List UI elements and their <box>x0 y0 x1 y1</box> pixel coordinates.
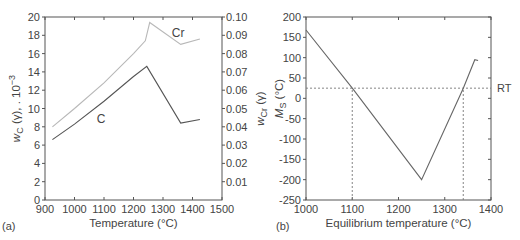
panel-a-right-y-axis-title: wCr (γ) <box>254 91 269 126</box>
x-tick-label: 1200 <box>386 203 410 215</box>
x-tick-label: 1300 <box>151 203 175 215</box>
panel-b-y-ticks: -250-200-150-100-50050100150200 <box>279 11 491 206</box>
y-tick-label: 100 <box>283 52 301 64</box>
y-tick-label: 50 <box>289 72 301 84</box>
panel-b-x-ticks: 10001100120013001400 <box>294 17 503 215</box>
y-tick-label: -200 <box>279 174 301 186</box>
x-tick-label: 1400 <box>479 203 503 215</box>
y-tick-label: 14 <box>28 66 40 78</box>
y-tick-label: 6 <box>34 139 40 151</box>
panel-b-annotations: RT <box>306 82 512 200</box>
y-tick-label: 200 <box>283 11 301 23</box>
series-line-ms <box>306 30 478 180</box>
y-tick-label: -250 <box>279 194 301 206</box>
right-y-tick-label: 0.01 <box>226 176 247 188</box>
panel-a-label: (a) <box>2 220 15 232</box>
y-tick-label: 10 <box>28 103 40 115</box>
right-y-tick-label: 0.07 <box>226 66 247 78</box>
panel-a-frame <box>45 17 222 200</box>
y-tick-label: 4 <box>34 157 40 169</box>
curve-label-cr: Cr <box>172 26 185 40</box>
panel-b-series <box>306 30 478 180</box>
x-tick-label: 1200 <box>121 203 145 215</box>
panel-a-y-ticks: 02468101214161820 <box>28 11 45 206</box>
panel-a-x-axis-title: Temperature (°C) <box>89 217 177 229</box>
panel-a-y-axis-title: wC (γ), . 10−3 <box>7 75 25 142</box>
right-y-tick-label: 0.02 <box>226 157 247 169</box>
panel-b-chart: 10001100120013001400 -250-200-150-100-50… <box>273 11 512 232</box>
y-tick-label: -50 <box>285 113 301 125</box>
y-tick-label: 12 <box>28 84 40 96</box>
x-tick-label: 1100 <box>340 203 364 215</box>
y-tick-label: -150 <box>279 153 301 165</box>
panel-a-chart: 900100011001200130014001500 024681012141… <box>2 11 269 232</box>
rt-label: RT <box>497 82 512 94</box>
y-tick-label: 16 <box>28 48 40 60</box>
panel-b-label: (b) <box>276 220 289 232</box>
curve-label-c: C <box>97 112 106 126</box>
right-y-tick-label: 0.05 <box>226 103 247 115</box>
panel-a-right-y-ticks: 0.010.020.030.040.050.060.070.080.090.10 <box>222 11 247 188</box>
right-y-tick-label: 0.08 <box>226 48 247 60</box>
x-tick-label: 1000 <box>62 203 86 215</box>
y-tick-label: 20 <box>28 11 40 23</box>
y-tick-label: -100 <box>279 133 301 145</box>
y-tick-label: 8 <box>34 121 40 133</box>
panel-b-x-axis-title: Equilibrium temperature (°C) <box>326 217 472 229</box>
right-y-tick-label: 0.04 <box>226 121 247 133</box>
x-tick-label: 1500 <box>210 203 234 215</box>
y-tick-label: 0 <box>34 194 40 206</box>
x-tick-label: 1400 <box>180 203 204 215</box>
series-line-c <box>52 66 200 139</box>
right-y-tick-label: 0.03 <box>226 139 247 151</box>
y-tick-label: 18 <box>28 29 40 41</box>
x-tick-label: 1300 <box>433 203 457 215</box>
y-tick-label: 150 <box>283 31 301 43</box>
panel-b-frame <box>306 17 491 200</box>
right-y-tick-label: 0.10 <box>226 11 247 23</box>
figure-svg: 900100011001200130014001500 024681012141… <box>0 0 520 240</box>
x-tick-label: 1100 <box>92 203 116 215</box>
panel-a-series: CCr <box>52 23 200 140</box>
right-y-tick-label: 0.06 <box>226 84 247 96</box>
right-y-tick-label: 0.09 <box>226 29 247 41</box>
y-tick-label: 2 <box>34 176 40 188</box>
figure: 900100011001200130014001500 024681012141… <box>0 0 520 240</box>
y-tick-label: 0 <box>295 92 301 104</box>
